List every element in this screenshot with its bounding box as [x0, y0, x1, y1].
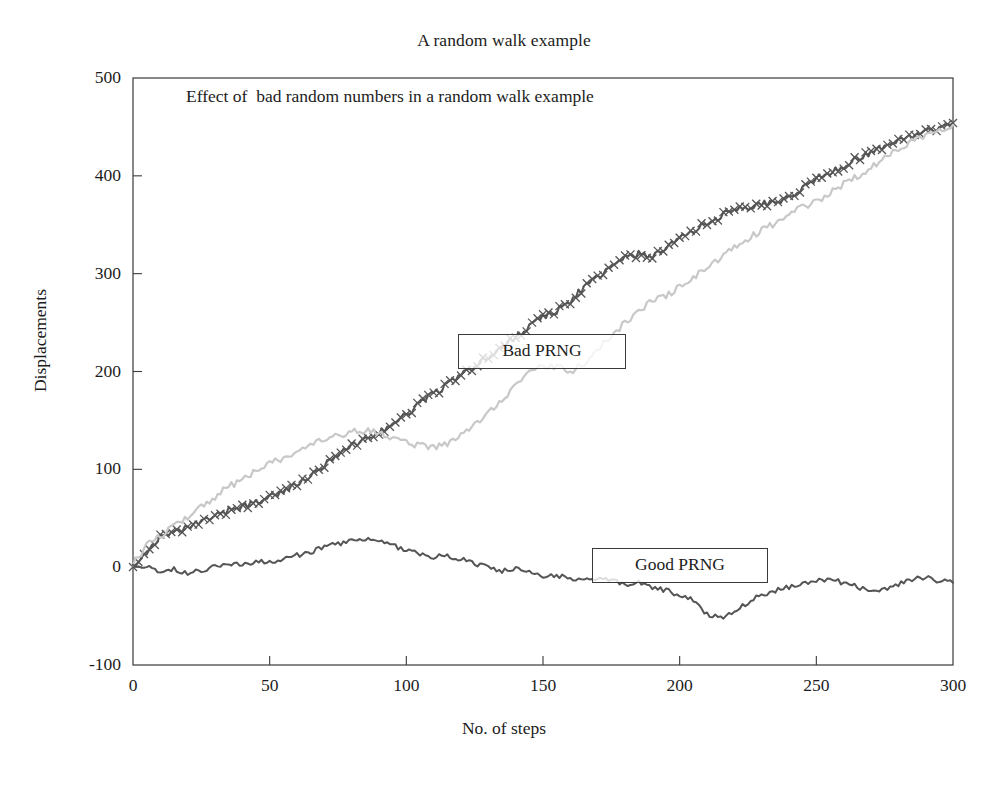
plot-canvas: [0, 0, 1008, 785]
figure-container: A random walk example Effect of bad rand…: [0, 0, 1008, 785]
series-line-good-prng: [133, 538, 953, 619]
plot-subtitle: Effect of bad random numbers in a random…: [186, 86, 594, 107]
series-annotation-bad-prng: Bad PRNG: [458, 334, 626, 369]
y-tick-label: 300: [51, 263, 121, 284]
x-tick-label: 50: [235, 675, 305, 696]
y-tick-label: 200: [51, 361, 121, 382]
y-tick-label: 100: [51, 458, 121, 479]
x-tick-label: 0: [98, 675, 168, 696]
y-axis-label: Displacements: [30, 241, 51, 441]
figure-title: A random walk example: [0, 30, 1008, 51]
series-annotation-good-prng: Good PRNG: [592, 548, 768, 583]
x-tick-label: 250: [781, 675, 851, 696]
x-tick-label: 150: [508, 675, 578, 696]
x-tick-label: 200: [645, 675, 715, 696]
x-tick-label: 100: [371, 675, 441, 696]
y-tick-label: -100: [51, 654, 121, 675]
x-tick-label: 300: [918, 675, 988, 696]
x-axis-label: No. of steps: [0, 718, 1008, 739]
y-tick-label: 500: [51, 67, 121, 88]
y-tick-label: 0: [51, 556, 121, 577]
y-tick-label: 400: [51, 165, 121, 186]
